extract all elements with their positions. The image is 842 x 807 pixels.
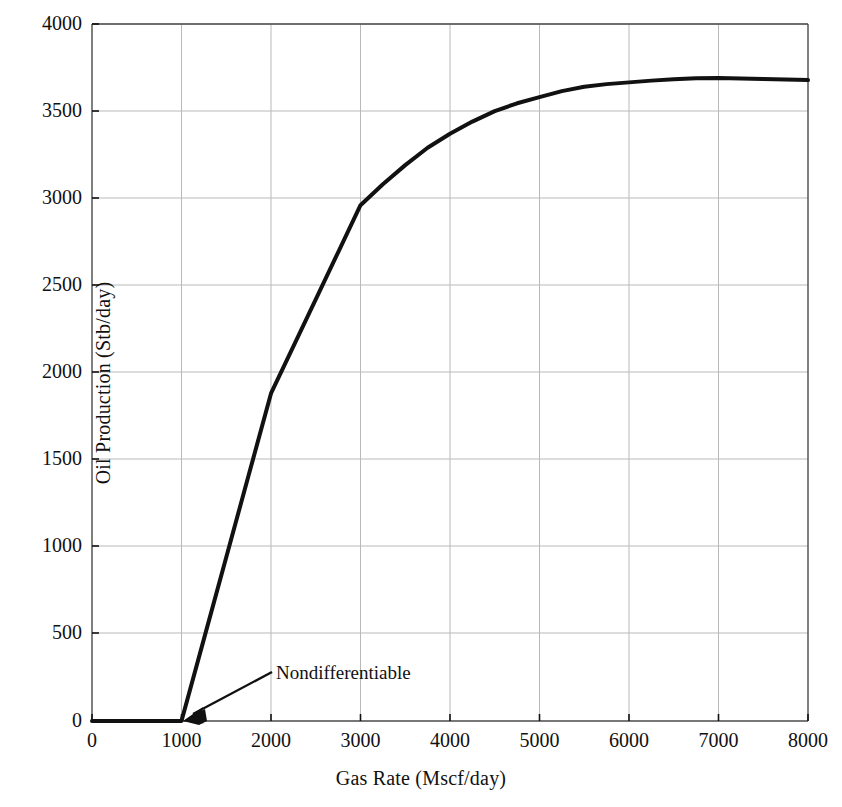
xtick-label-2000: 2000 bbox=[226, 729, 316, 752]
y-axis-title: Oil Production (Stb/day) bbox=[92, 282, 115, 485]
y-axis-title-wrapper: Oil Production (Stb/day) bbox=[92, 33, 118, 733]
ytick-label-3500: 3500 bbox=[2, 99, 82, 122]
xtick-label-4000: 4000 bbox=[405, 729, 495, 752]
ytick-label-500: 500 bbox=[2, 621, 82, 644]
ytick-label-1500: 1500 bbox=[2, 447, 82, 470]
ytick-label-1000: 1000 bbox=[2, 534, 82, 557]
ytick-label-4000: 4000 bbox=[2, 12, 82, 35]
xtick-label-3000: 3000 bbox=[316, 729, 406, 752]
annotation-label: Nondifferentiable bbox=[276, 662, 411, 684]
xtick-label-1000: 1000 bbox=[137, 729, 227, 752]
x-axis-title: Gas Rate (Mscf/day) bbox=[0, 767, 842, 790]
xtick-label-6000: 6000 bbox=[584, 729, 674, 752]
xtick-label-8000: 8000 bbox=[763, 729, 842, 752]
xtick-label-7000: 7000 bbox=[674, 729, 764, 752]
ytick-label-3000: 3000 bbox=[2, 186, 82, 209]
chart-figure: 4000 3500 3000 2500 2000 1500 1000 500 0… bbox=[0, 0, 842, 807]
ytick-label-2500: 2500 bbox=[2, 273, 82, 296]
xtick-label-5000: 5000 bbox=[495, 729, 585, 752]
ytick-label-2000: 2000 bbox=[2, 360, 82, 383]
annotation-arrow-icon bbox=[183, 672, 272, 725]
line-chart-plot bbox=[0, 0, 842, 807]
